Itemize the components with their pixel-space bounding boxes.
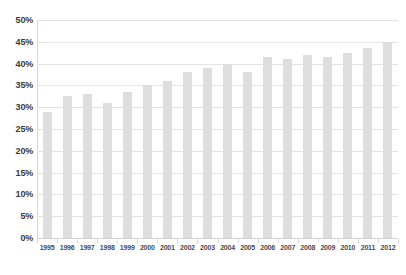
y-axis-tick-label: 5% [20, 211, 33, 221]
x-axis-tick-mark [97, 239, 98, 243]
bar [383, 42, 392, 238]
x-axis-tick-mark [378, 239, 379, 243]
y-axis-tick-label: 0% [20, 233, 33, 243]
bar [183, 72, 192, 238]
x-axis-tick-mark [117, 239, 118, 243]
x-axis-tick-mark [358, 239, 359, 243]
x-axis-tick-mark [278, 239, 279, 243]
x-axis-tick-mark [37, 239, 38, 243]
bar-series [37, 20, 398, 238]
x-axis-tick-mark [77, 239, 78, 243]
bar [123, 92, 132, 238]
bar [283, 59, 292, 238]
bar [263, 57, 272, 238]
x-axis-tick-mark [338, 239, 339, 243]
x-axis-tick-mark [398, 239, 399, 243]
x-axis-tick-mark [137, 239, 138, 243]
x-axis-tick-mark [57, 239, 58, 243]
bar [43, 112, 52, 238]
bar [343, 53, 352, 238]
x-axis-tick-label: 2012 [375, 243, 401, 252]
bar [103, 103, 112, 238]
y-axis-tick-label: 10% [16, 189, 33, 199]
bar [143, 85, 152, 238]
bar [163, 81, 172, 238]
x-axis-tick-mark [318, 239, 319, 243]
x-axis-tick-labels: 1995199619971998199920002001200220032004… [37, 243, 398, 257]
y-axis-tick-label: 25% [16, 124, 33, 134]
bar [203, 68, 212, 238]
bar [363, 48, 372, 238]
x-axis-tick-mark [157, 239, 158, 243]
bar [323, 57, 332, 238]
y-axis-tick-label: 15% [16, 168, 33, 178]
plot-area [37, 20, 398, 238]
y-axis-tick-label: 40% [16, 59, 33, 69]
y-axis-tick-label: 20% [16, 146, 33, 156]
y-axis-tick-label: 35% [16, 80, 33, 90]
y-axis-tick-label: 50% [16, 15, 33, 25]
x-axis-tick-mark [177, 239, 178, 243]
y-axis-tick-label: 30% [16, 102, 33, 112]
bar [83, 94, 92, 238]
bar [63, 96, 72, 238]
x-axis-tick-mark [218, 239, 219, 243]
y-axis-tick-label: 45% [16, 37, 33, 47]
y-axis-tick-labels: 0%5%10%15%20%25%30%35%40%45%50% [0, 0, 33, 275]
bar [223, 64, 232, 238]
bar [243, 72, 252, 238]
x-axis-tick-mark [298, 239, 299, 243]
x-axis-tick-mark [258, 239, 259, 243]
bar-chart: 0%5%10%15%20%25%30%35%40%45%50% 19951996… [0, 0, 406, 275]
x-axis-tick-mark [197, 239, 198, 243]
bar [303, 55, 312, 238]
x-axis-tick-mark [238, 239, 239, 243]
